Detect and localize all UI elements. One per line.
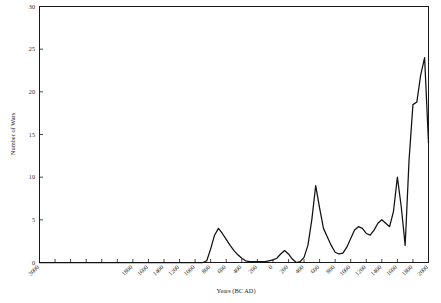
x-tick-label: 1400 <box>369 263 383 277</box>
data-line-number-of-wars <box>40 58 429 263</box>
x-tick-label: 800 <box>324 263 336 275</box>
plot-frame <box>40 7 429 263</box>
y-tick-label: 5 <box>32 216 35 223</box>
x-tick-label: 1000 <box>338 263 352 277</box>
x-tick-label: 600 <box>309 263 321 275</box>
y-tick-label: 20 <box>29 88 35 95</box>
x-tick-label: 200 <box>247 263 259 275</box>
x-tick-label: 1400 <box>151 263 165 277</box>
x-tick-label: 800 <box>200 263 212 275</box>
chart-container: 3000180016001400120010008006004002000200… <box>0 0 441 303</box>
x-tick-label: 1600 <box>384 263 398 277</box>
x-tick-label: 600 <box>215 263 227 275</box>
x-tick-label: 400 <box>293 263 305 275</box>
y-tick-label: 15 <box>29 131 35 138</box>
y-axis-ticks <box>40 7 44 263</box>
x-tick-label: 1200 <box>167 263 181 277</box>
y-tick-label: 10 <box>29 173 35 180</box>
x-tick-label: 1600 <box>135 263 149 277</box>
x-tick-label: 1200 <box>353 263 367 277</box>
x-tick-label: 1800 <box>400 263 414 277</box>
x-axis-tick-labels: 3000180016001400120010008006004002000200… <box>27 263 430 277</box>
x-tick-label: 1000 <box>182 263 196 277</box>
data-series-group <box>40 58 429 263</box>
y-axis-tick-labels: 051015202530 <box>29 3 35 266</box>
y-axis-title: Number of Wars <box>9 112 16 155</box>
y-tick-label: 30 <box>29 3 35 10</box>
y-tick-label: 0 <box>32 259 35 266</box>
x-axis-title: Years (BC AD) <box>216 287 255 295</box>
x-tick-label: 200 <box>278 263 290 275</box>
y-tick-label: 25 <box>29 45 35 52</box>
x-tick-label: 400 <box>231 263 243 275</box>
x-tick-label: 0 <box>266 263 273 270</box>
x-tick-label: 1800 <box>120 263 134 277</box>
x-tick-label: 2000 <box>416 263 430 277</box>
wars-over-time-line-chart: 3000180016001400120010008006004002000200… <box>0 0 441 303</box>
